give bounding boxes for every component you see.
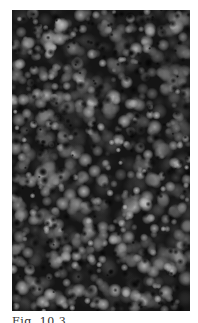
micrograph-figure bbox=[12, 10, 190, 311]
figure-caption: Fig. 10.3 bbox=[12, 316, 66, 323]
micrograph-image bbox=[12, 10, 190, 311]
